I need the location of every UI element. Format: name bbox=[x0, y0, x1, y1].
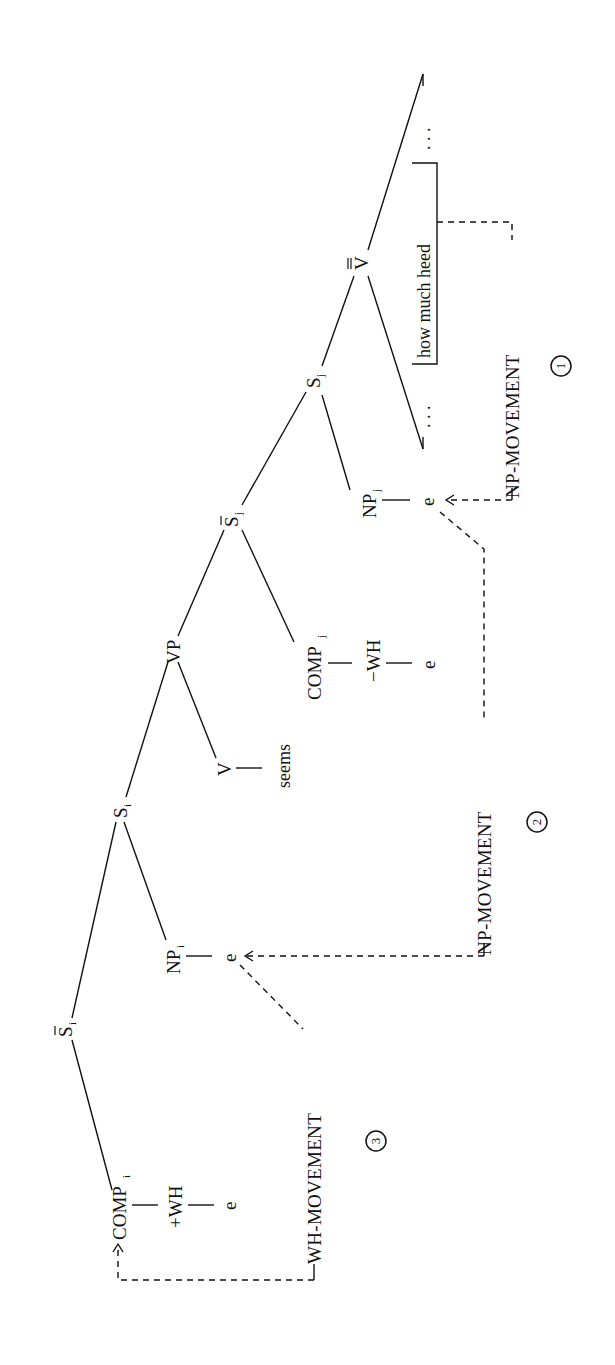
node-comp-j: COMP j bbox=[304, 635, 327, 700]
phrase-how-much-heed: how much heed bbox=[414, 244, 434, 358]
movement-2-np: NP-MOVEMENT 2 bbox=[245, 512, 547, 961]
node-e-comp-j: e bbox=[418, 661, 439, 669]
node-e-comp-i: e bbox=[219, 1202, 240, 1210]
node-np-i: NP i bbox=[163, 945, 186, 974]
node-s-j: S j bbox=[303, 374, 326, 388]
tree-nodes: S i COMP i +WH e S i NP i e bbox=[55, 256, 439, 1240]
svg-text:j: j bbox=[314, 374, 326, 378]
svg-text:2: 2 bbox=[529, 819, 544, 826]
step-3-circle: 3 bbox=[366, 1131, 386, 1151]
node-plus-wh: +WH bbox=[165, 1185, 186, 1228]
svg-text:3: 3 bbox=[368, 1138, 383, 1145]
svg-text:e: e bbox=[418, 661, 439, 669]
svg-text:COMP: COMP bbox=[304, 646, 325, 700]
svg-text:j: j bbox=[370, 489, 382, 493]
svg-text:i: i bbox=[121, 804, 133, 807]
boxed-phrase: how much heed . . . . . . bbox=[412, 128, 437, 429]
svg-text:e: e bbox=[219, 1202, 240, 1210]
node-e-np-j: e bbox=[417, 498, 438, 506]
svg-text:S: S bbox=[221, 516, 242, 527]
svg-text:VP: VP bbox=[163, 640, 184, 664]
svg-text:i: i bbox=[120, 1175, 132, 1178]
svg-text:S: S bbox=[55, 1026, 76, 1037]
node-seems: seems bbox=[274, 744, 294, 788]
svg-text:V: V bbox=[351, 256, 372, 270]
ellipsis-lower: . . . bbox=[414, 406, 434, 429]
step-2-circle: 2 bbox=[527, 812, 547, 832]
svg-text:e: e bbox=[219, 954, 240, 962]
svg-text:1: 1 bbox=[553, 363, 568, 370]
syntax-tree-diagram: how much heed . . . . . . S i COMP i +WH… bbox=[0, 0, 615, 1365]
svg-text:j: j bbox=[232, 512, 244, 516]
svg-text:S: S bbox=[110, 807, 131, 818]
svg-text:e: e bbox=[417, 498, 438, 506]
node-np-j: NP j bbox=[359, 489, 382, 518]
tree-edges bbox=[72, 74, 423, 1205]
svg-text:j: j bbox=[315, 635, 327, 639]
node-sbar-j: S j bbox=[221, 512, 244, 527]
svg-text:NP: NP bbox=[359, 494, 380, 518]
svg-text:S: S bbox=[303, 377, 324, 388]
svg-text:i: i bbox=[66, 1022, 78, 1025]
svg-text:V: V bbox=[214, 762, 235, 776]
svg-text:NP: NP bbox=[163, 950, 184, 974]
step-1-circle: 1 bbox=[551, 356, 571, 376]
svg-text:seems: seems bbox=[274, 744, 294, 788]
movement-2-label: NP-MOVEMENT bbox=[474, 811, 495, 955]
node-v: V bbox=[214, 762, 235, 776]
movement-3-wh: WH-MOVEMENT 3 bbox=[113, 965, 386, 1280]
movement-3-label: WH-MOVEMENT bbox=[304, 1113, 325, 1264]
svg-text:i: i bbox=[174, 945, 186, 948]
node-vp: VP bbox=[163, 640, 184, 664]
movement-1-np: NP-MOVEMENT 1 bbox=[437, 222, 571, 505]
node-minus-wh: −WH bbox=[363, 639, 384, 682]
svg-text:−WH: −WH bbox=[363, 639, 384, 682]
movement-1-label: NP-MOVEMENT bbox=[502, 354, 523, 498]
node-v-double-bar: V bbox=[348, 256, 372, 270]
svg-text:+WH: +WH bbox=[165, 1185, 186, 1228]
svg-text:COMP: COMP bbox=[109, 1186, 130, 1240]
node-sbar-i: S i bbox=[55, 1022, 78, 1037]
node-e-np-i: e bbox=[219, 954, 240, 962]
node-s-i: S i bbox=[110, 804, 133, 818]
node-comp-i: COMP i bbox=[109, 1175, 132, 1240]
ellipsis-upper: . . . bbox=[414, 128, 434, 151]
